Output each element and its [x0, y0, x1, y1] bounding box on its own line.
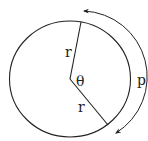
label-radius-upper: r: [65, 44, 72, 60]
label-arc: p: [137, 72, 146, 88]
label-angle: θ: [76, 73, 84, 89]
circle-arc-diagram: r θ r p: [0, 0, 148, 141]
label-radius-lower: r: [78, 99, 85, 115]
